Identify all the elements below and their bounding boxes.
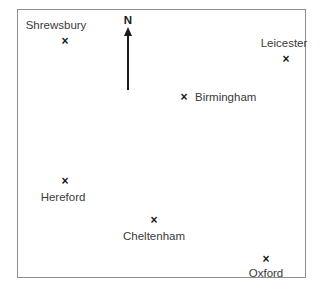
city-marker-icon: × bbox=[261, 254, 272, 265]
map-frame: ×Shrewsbury×Leicester×Birmingham×Herefor… bbox=[17, 9, 306, 278]
city-marker-icon: × bbox=[179, 92, 190, 103]
north-arrow-shaft bbox=[127, 34, 129, 90]
city-marker-icon: × bbox=[60, 36, 71, 47]
city-label: Oxford bbox=[249, 267, 284, 279]
city-marker-icon: × bbox=[60, 176, 71, 187]
city-label: Birmingham bbox=[195, 91, 256, 103]
city-label: Shrewsbury bbox=[26, 19, 87, 31]
city-marker-icon: × bbox=[281, 54, 292, 65]
city-label: Hereford bbox=[41, 191, 86, 203]
city-label: Cheltenham bbox=[123, 230, 185, 242]
city-label: Leicester bbox=[261, 37, 308, 49]
city-marker-icon: × bbox=[149, 215, 160, 226]
locator-map-figure: ×Shrewsbury×Leicester×Birmingham×Herefor… bbox=[0, 0, 325, 292]
north-arrow-label: N bbox=[124, 14, 132, 26]
